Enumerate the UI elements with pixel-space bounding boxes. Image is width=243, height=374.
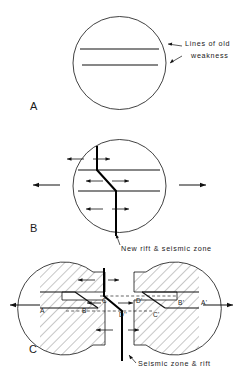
panel-c-callout-leader <box>129 355 136 363</box>
callout-lines-of-old-weakness-line2: weakness <box>190 51 229 60</box>
point-label-a: A <box>40 307 45 314</box>
panel-letter-a: A <box>30 100 38 112</box>
callout-new-rift-seismic-zone: New rift & seismic zone <box>121 244 212 253</box>
panel-letter-b: B <box>30 222 38 234</box>
point-label-c-prime: C' <box>153 311 160 318</box>
point-label-d-double-prime: D'' <box>119 311 127 318</box>
panel-a-craton-circle <box>73 17 166 110</box>
callout-lines-of-old-weakness-line1: Lines of old <box>185 39 230 48</box>
arrow-pair-lower <box>86 207 129 210</box>
panel-b-callout-leader <box>116 234 120 245</box>
point-label-b: B <box>82 307 87 314</box>
geological-diagram-figure: Lines of old weakness A <box>0 0 243 374</box>
panel-letter-c: C <box>29 343 37 355</box>
point-label-a-prime: A' <box>201 299 207 306</box>
panel-c: A B C D' D'' C' B' A' Seismic zone & rif… <box>10 262 233 368</box>
point-label-c: C <box>102 297 107 304</box>
panel-c-right-block <box>119 262 221 357</box>
panel-a-weakness-lines <box>80 49 159 65</box>
panel-a-callout-leaders <box>168 42 182 63</box>
point-label-b-prime: B' <box>178 299 184 306</box>
panel-a: Lines of old weakness A <box>30 17 230 113</box>
panel-b: New rift & seismic zone B <box>30 140 212 254</box>
arrow-pair-upper <box>67 157 110 160</box>
panel-b-regional-extension-arrows <box>33 183 206 188</box>
panel-b-craton-circle <box>73 140 166 233</box>
figure-page: Lines of old weakness A <box>0 0 243 374</box>
point-label-d-prime: D' <box>136 297 143 304</box>
callout-seismic-zone-rift: Seismic zone & rift <box>138 359 211 368</box>
